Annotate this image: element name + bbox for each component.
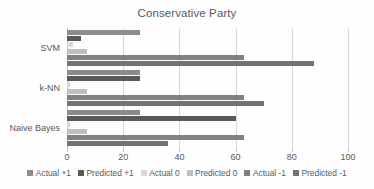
value-axis: 020406080100 bbox=[67, 148, 348, 162]
bar bbox=[67, 95, 244, 100]
axis-tick-label: 80 bbox=[287, 152, 297, 162]
bar-group bbox=[67, 70, 348, 106]
bar bbox=[67, 36, 81, 41]
category-axis-labels: SVMk-NNNaive Bayes bbox=[0, 28, 65, 148]
bar bbox=[67, 61, 314, 66]
legend-swatch-icon bbox=[141, 170, 147, 176]
legend-label: Actual +1 bbox=[36, 168, 71, 178]
legend-swatch-icon bbox=[293, 170, 299, 176]
bar bbox=[67, 101, 264, 106]
bar bbox=[67, 122, 70, 127]
legend-swatch-icon bbox=[78, 170, 84, 176]
bar bbox=[67, 76, 140, 81]
bar bbox=[67, 70, 140, 75]
legend-label: Actual 0 bbox=[149, 168, 179, 178]
bar bbox=[67, 30, 140, 35]
axis-tick-label: 40 bbox=[174, 152, 184, 162]
legend-item[interactable]: Actual +1 bbox=[27, 168, 71, 178]
bar bbox=[67, 110, 140, 115]
legend-swatch-icon bbox=[27, 170, 33, 176]
bar-group bbox=[67, 30, 348, 66]
bar bbox=[67, 82, 70, 87]
axis-tick-label: 60 bbox=[231, 152, 241, 162]
bar bbox=[67, 116, 236, 121]
axis-tick-label: 100 bbox=[340, 152, 355, 162]
legend-label: Actual -1 bbox=[253, 168, 286, 178]
legend-label: Predicted +1 bbox=[87, 168, 134, 178]
bar bbox=[67, 135, 244, 140]
legend-item[interactable]: Actual 0 bbox=[141, 168, 180, 178]
bar bbox=[67, 141, 168, 146]
legend-label: Predicted -1 bbox=[301, 168, 346, 178]
chart-legend: Actual +1Predicted +1Actual 0Predicted 0… bbox=[0, 166, 374, 180]
bar-group bbox=[67, 110, 348, 146]
category-label: k-NN bbox=[40, 83, 61, 93]
bar bbox=[67, 129, 87, 134]
gridline bbox=[348, 28, 349, 148]
bar bbox=[67, 55, 244, 60]
category-label: Naive Bayes bbox=[9, 123, 60, 133]
axis-tick-label: 0 bbox=[64, 152, 69, 162]
legend-label: Predicted 0 bbox=[195, 168, 237, 178]
bar bbox=[67, 89, 87, 94]
bar bbox=[67, 49, 87, 54]
legend-swatch-icon bbox=[187, 170, 193, 176]
chart-title: Conservative Party bbox=[0, 7, 374, 19]
legend-swatch-icon bbox=[244, 170, 250, 176]
legend-item[interactable]: Predicted -1 bbox=[293, 168, 347, 178]
bar bbox=[67, 42, 73, 47]
plot-area bbox=[67, 28, 348, 148]
category-label: SVM bbox=[40, 43, 60, 53]
axis-tick-label: 20 bbox=[118, 152, 128, 162]
legend-item[interactable]: Actual -1 bbox=[244, 168, 286, 178]
legend-item[interactable]: Predicted +1 bbox=[78, 168, 134, 178]
legend-item[interactable]: Predicted 0 bbox=[187, 168, 238, 178]
bar-chart: Conservative Party SVMk-NNNaive Bayes 02… bbox=[0, 0, 374, 189]
